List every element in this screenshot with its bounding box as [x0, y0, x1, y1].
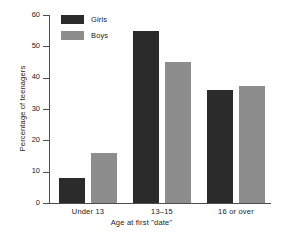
y-axis-tick-label: 50 — [32, 41, 40, 51]
y-axis-tick-label: 0 — [36, 198, 40, 208]
x-axis-title: Age at first "date" — [0, 218, 283, 227]
bar-boys-0 — [91, 153, 117, 203]
legend-label: Boys — [91, 31, 108, 40]
x-axis-category-label: 16 or over — [193, 206, 279, 217]
x-axis-line — [49, 203, 271, 204]
legend-swatch — [61, 15, 84, 24]
y-axis-tick-label: 10 — [32, 166, 40, 176]
y-axis-tick-label: 60 — [32, 10, 40, 20]
bar-chart: Percentage of teenagers 0102030405060 Un… — [0, 0, 283, 243]
bar-boys-2 — [239, 86, 265, 204]
y-axis-title: Percentage of teenagers — [18, 29, 27, 189]
bar-girls-0 — [59, 178, 85, 203]
legend-label: Girls — [91, 15, 107, 24]
y-axis-tick: 0 — [43, 203, 49, 204]
legend-swatch — [61, 31, 84, 40]
y-axis-tick-label: 40 — [32, 72, 40, 82]
legend-item: Girls — [61, 13, 108, 26]
y-axis-tick-label: 30 — [32, 104, 40, 114]
y-axis-tick-label: 20 — [32, 135, 40, 145]
chart-legend: GirlsBoys — [61, 13, 108, 45]
bar-girls-2 — [207, 90, 233, 203]
bar-boys-1 — [165, 62, 191, 203]
legend-item: Boys — [61, 29, 108, 42]
bar-girls-1 — [133, 31, 159, 203]
